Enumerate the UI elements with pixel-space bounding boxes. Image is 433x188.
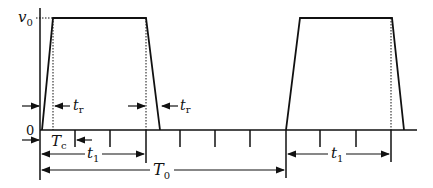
sample-ticks <box>75 130 356 147</box>
pulse-1 <box>42 18 160 130</box>
tr-left-label: tr <box>73 97 84 115</box>
T0-label: T0 <box>153 160 170 181</box>
pulse-2 <box>286 18 404 130</box>
t1-label: t1 <box>87 144 99 164</box>
tc-label: Tc <box>51 132 67 151</box>
tr-right-label: tr <box>180 97 191 115</box>
t1b-label: t1 <box>331 144 343 164</box>
pulse-waveform-diagram: v0 0 tr tr Tc t1 T0 t1 <box>0 0 433 188</box>
zero-label: 0 <box>26 123 34 138</box>
v0-label: v0 <box>18 8 33 28</box>
